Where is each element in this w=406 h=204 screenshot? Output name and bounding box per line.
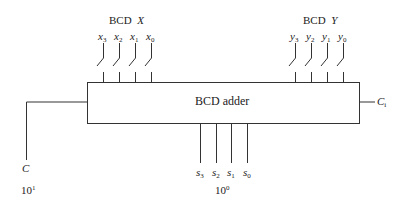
x2-label: x2 (114, 31, 122, 46)
x-switches (97, 43, 152, 82)
bcd-y-title: BCD Y (303, 15, 337, 26)
x3-label: x3 (98, 31, 106, 46)
carry-out-wire (27, 102, 88, 160)
s1-label: s1 (227, 167, 235, 182)
y-switches (289, 43, 344, 82)
carry-in-label: Ci (377, 96, 386, 111)
bcd-y-title-text: BCD (303, 14, 326, 26)
bcd-adder-label: BCD adder (195, 96, 249, 107)
x0-label: x0 (146, 31, 154, 46)
y2-label: y2 (306, 31, 314, 46)
x1-label: x1 (130, 31, 138, 46)
s2-label: s2 (212, 167, 220, 182)
s-output-wires (201, 123, 248, 163)
s-weight-label: 100 (215, 183, 230, 196)
s0-label: s0 (243, 167, 251, 182)
y1-label: y1 (322, 31, 330, 46)
y0-label: y0 (338, 31, 346, 46)
bcd-x-var: X (137, 14, 144, 26)
carry-out-label: C (22, 163, 29, 174)
bcd-y-var: Y (331, 14, 337, 26)
bcd-x-title: BCD X (109, 15, 144, 26)
carry-weight-label: 101 (21, 183, 36, 196)
bcd-x-title-text: BCD (109, 14, 132, 26)
s3-label: s3 (196, 167, 204, 182)
y3-label: y3 (290, 31, 298, 46)
